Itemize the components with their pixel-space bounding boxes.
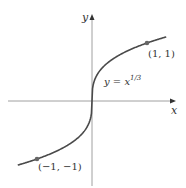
point-1-1	[145, 41, 150, 46]
equation-lhs: y = x	[103, 76, 130, 87]
point-neg-label: (−1, −1)	[38, 161, 82, 172]
x-axis-label: x	[171, 104, 178, 117]
point-pos-label: (1, 1)	[148, 48, 175, 59]
x-axis-arrow-icon	[170, 99, 176, 104]
equation-label: y = x1/3	[103, 74, 142, 87]
y-axis-label: y	[81, 11, 89, 24]
cube-root-chart: y x (1, 1) (−1, −1) y = x1/3	[0, 0, 186, 188]
y-axis-arrow-icon	[90, 14, 95, 20]
equation-exponent: 1/3	[130, 74, 142, 82]
